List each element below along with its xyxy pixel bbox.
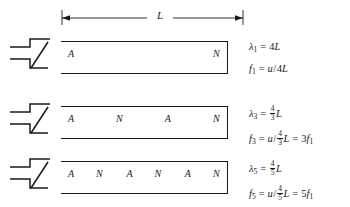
harmonic-row-1: A N λ1=4L f1=u/4L [0, 35, 350, 85]
equals-sign: = [257, 108, 269, 119]
mouthpiece-upper-line [10, 159, 50, 167]
fraction-denominator: 5 [270, 169, 276, 177]
dimension-arrow-left-icon [62, 15, 70, 21]
mouthpiece-lower-line [10, 59, 48, 68]
wavelength-equation-1: λ1=4L [249, 40, 280, 56]
wavelength-equation-3: λ5=45L [249, 160, 282, 178]
frequency-equation-2: f3=u/43L=3f1 [249, 130, 313, 148]
mouthpiece-diagonal-line [31, 42, 48, 68]
mouthpiece-upper-line [10, 39, 50, 47]
fraction-denominator: 3 [277, 139, 283, 147]
pipe-body-3 [61, 161, 228, 194]
dimension-arrow-right-icon [235, 15, 243, 21]
frequency-denominator-fraction: 45 [277, 185, 283, 201]
mouthpiece-upper-line [10, 104, 50, 112]
equals-sign-secondary: = [289, 188, 301, 199]
mouthpiece-lower-line [10, 179, 48, 188]
harmonic-row-2: A N A N λ3=43L f3=u/43L=3f1 [0, 100, 350, 150]
division-slash: / [273, 133, 277, 144]
fraction-denominator: 3 [270, 114, 276, 122]
equals-sign: = [256, 63, 268, 74]
wavelength-unit: L [276, 108, 282, 119]
mouthpiece-lower-line [10, 124, 48, 133]
pipe-body-1 [61, 41, 228, 74]
fundamental-frequency-subscript: 1 [309, 137, 313, 146]
equals-sign: = [256, 188, 268, 199]
pipe-body-2 [61, 106, 228, 139]
frequency-equation-3: f5=u/45L=5f1 [249, 185, 313, 203]
wavelength-unit: L [276, 163, 282, 174]
mouthpiece-diagonal-line [31, 162, 48, 188]
equals-sign: = [257, 41, 269, 52]
division-slash: / [273, 188, 277, 199]
frequency-denominator-fraction: 43 [277, 130, 283, 146]
equals-sign: = [257, 163, 269, 174]
wavelength-fraction: 43 [270, 105, 276, 121]
wavelength-equation-2: λ3=43L [249, 105, 282, 123]
fundamental-frequency-subscript: 1 [309, 192, 313, 201]
mouthpiece-icon [8, 35, 66, 83]
mouthpiece-icon [8, 155, 66, 203]
frequency-denominator-unit: L [282, 63, 288, 74]
closed-pipe-harmonics-figure: L A N λ1=4L f1=u/4L A N A [0, 0, 350, 207]
harmonic-row-3: A N A N A N λ5=45L f5=u/45L=5f1 [0, 155, 350, 205]
wavelength-fraction: 45 [270, 160, 276, 176]
frequency-equation-1: f1=u/4L [249, 62, 288, 78]
dimension-label-L: L [147, 10, 173, 21]
mouthpiece-diagonal-line [31, 107, 48, 133]
equals-sign-secondary: = [289, 133, 301, 144]
fraction-denominator: 5 [277, 194, 283, 202]
mouthpiece-icon [8, 100, 66, 148]
wavelength-unit: L [274, 41, 280, 52]
equals-sign: = [256, 133, 268, 144]
